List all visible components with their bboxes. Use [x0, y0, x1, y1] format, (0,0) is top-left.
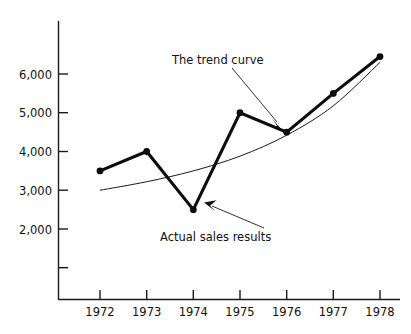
- actual-sales-annotation: Actual sales results: [160, 200, 271, 244]
- y-axis-label-3000: 3,000: [19, 184, 52, 198]
- y-axis-label-4000: 4,000: [19, 145, 52, 159]
- x-axis-label-1977: 1977: [319, 305, 348, 319]
- sales-trend-chart: 6,000 5,000 4,000 3,000 2,000 1972 1973 …: [0, 0, 411, 334]
- y-axis-label-5000: 5,000: [19, 106, 52, 120]
- y-axis-label-6000: 6,000: [19, 68, 52, 82]
- actual-sales-series: [100, 57, 380, 210]
- x-axis-label-1974: 1974: [179, 305, 208, 319]
- trend-curve-series: [100, 62, 380, 190]
- y-axis-label-2000: 2,000: [19, 223, 52, 237]
- x-axis-label-1978: 1978: [365, 305, 394, 319]
- x-axis-label-1976: 1976: [272, 305, 301, 319]
- actual-sales-annotation-label: Actual sales results: [160, 230, 271, 244]
- trend-curve-annotation: The trend curve: [171, 53, 282, 130]
- data-point-marker: [97, 167, 104, 174]
- data-point-marker: [377, 53, 384, 60]
- actual-sales-arrow-icon: [204, 200, 217, 211]
- chart-canvas: 6,000 5,000 4,000 3,000 2,000 1972 1973 …: [0, 0, 411, 334]
- x-axis-ticks: [100, 290, 380, 300]
- data-point-marker: [143, 148, 150, 155]
- x-axis-label-1975: 1975: [225, 305, 254, 319]
- y-axis-ticks: [59, 74, 69, 268]
- data-point-marker: [237, 109, 244, 116]
- x-axis-label-1973: 1973: [132, 305, 161, 319]
- data-point-marker: [190, 206, 197, 213]
- actual-sales-leader-line: [212, 206, 264, 228]
- trend-curve-annotation-label: The trend curve: [171, 53, 264, 67]
- data-point-marker: [283, 129, 290, 136]
- data-point-marker: [330, 90, 337, 97]
- x-axis-label-1972: 1972: [85, 305, 114, 319]
